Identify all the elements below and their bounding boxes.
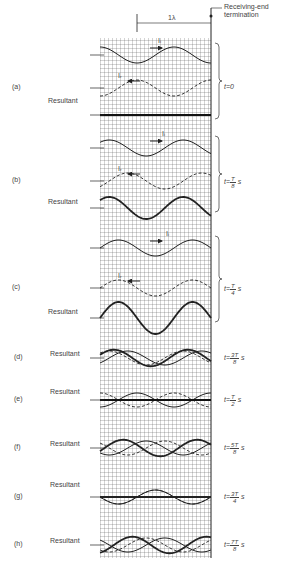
time-fraction: 7T8 <box>230 539 239 552</box>
time-label-g: t=3T4 s <box>224 491 245 504</box>
time-label-d: t=3T8 s <box>224 352 245 365</box>
reflected-wave-label: Iᵣ <box>118 72 122 79</box>
panel-label-h: (h) <box>14 540 23 547</box>
resultant-label: Resultant <box>50 388 80 395</box>
resultant-label: Resultant <box>48 198 78 205</box>
time-label-h: t=7T8 s <box>224 539 245 552</box>
time-label-e: t=T2 s <box>224 394 241 407</box>
panel-label-d: (d) <box>14 353 23 360</box>
termination-label-line1: Receiving-end <box>224 3 269 11</box>
panel-label-e: (e) <box>14 395 23 402</box>
panel-label-f: (f) <box>14 443 21 450</box>
incident-wave-label: Iᵢ <box>162 130 165 137</box>
time-label-b: t=T8 s <box>224 176 241 189</box>
standing-wave-diagram <box>0 0 294 577</box>
resultant-label: Resultant <box>48 308 78 315</box>
time-prefix: t=0 <box>224 83 234 90</box>
panel-label-g: (g) <box>14 492 23 499</box>
resultant-label: Resultant <box>50 481 80 488</box>
reflected-wave-label: Iᵣ <box>118 165 122 172</box>
time-label-f: t=5T8 s <box>224 442 245 455</box>
termination-dot <box>210 15 213 18</box>
resultant-label: Resultant <box>50 350 80 357</box>
time-fraction: 3T4 <box>230 491 239 504</box>
wavelength-label: 1λ <box>168 14 175 21</box>
panel-label-a: (a) <box>12 83 21 90</box>
time-fraction: 3T8 <box>230 352 239 365</box>
incident-wave-label: Iᵢ <box>158 37 161 44</box>
resultant-label: Resultant <box>48 97 78 104</box>
termination-label: Receiving-end termination <box>224 3 269 19</box>
resultant-label: Resultant <box>50 440 80 447</box>
time-label-a: t=0 <box>224 83 234 90</box>
incident-wave-label: Iᵢ <box>166 230 169 237</box>
panel-label-b: (b) <box>12 176 21 183</box>
termination-label-line2: termination <box>224 11 269 19</box>
panel-label-c: (c) <box>12 283 20 290</box>
resultant-label: Resultant <box>50 537 80 544</box>
reflected-wave-label: Iᵣ <box>118 272 122 279</box>
time-label-c: t=T4 s <box>224 283 241 296</box>
time-fraction: 5T8 <box>230 442 239 455</box>
